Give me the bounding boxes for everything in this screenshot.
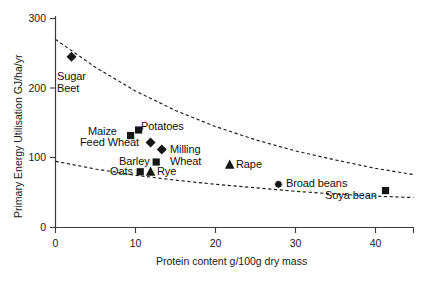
y-tick-label-300: 300 [18, 13, 46, 24]
data-point-milling-wheat [157, 144, 167, 154]
point-label-oats: Oats [110, 166, 133, 178]
data-point-broad-beans [275, 180, 283, 188]
y-tick-label-0: 0 [18, 222, 46, 233]
point-label-rape: Rape [236, 159, 262, 171]
x-tick-label-40: 40 [363, 238, 388, 249]
x-tick-label-30: 30 [283, 238, 308, 249]
x-tick-label-20: 20 [203, 238, 228, 249]
point-label-soya-bean: Soya bean [325, 190, 377, 202]
upper-boundary-curve [56, 39, 414, 174]
point-label-sugar-beet: Sugar Beet [57, 71, 86, 95]
sugar-beet-line-2: Beet [57, 83, 86, 95]
data-point-rape [225, 160, 235, 169]
y-axis-ticks [50, 19, 55, 228]
data-point-soya-bean [382, 187, 389, 194]
data-point-feed-wheat [146, 138, 156, 148]
point-label-feed-wheat: Feed Wheat [80, 137, 139, 149]
data-point-oats [137, 168, 144, 175]
point-label-rye: Rye [157, 166, 176, 178]
x-axis-ticks [56, 228, 414, 234]
data-point-rye [146, 167, 156, 176]
x-axis-title: Protein content g/100g dry mass [156, 256, 307, 267]
point-label-potatoes: Potatoes [141, 121, 184, 133]
point-label-broad-beans: Broad beans [286, 178, 347, 190]
x-tick-label-10: 10 [123, 238, 148, 249]
y-axis-title: Primary Energy Utilisation GJ/ha/yr [13, 55, 24, 218]
scatter-chart: 300 200 100 0 0 10 20 30 40 Primary Ener… [0, 0, 433, 285]
x-tick-label-0: 0 [43, 238, 68, 249]
